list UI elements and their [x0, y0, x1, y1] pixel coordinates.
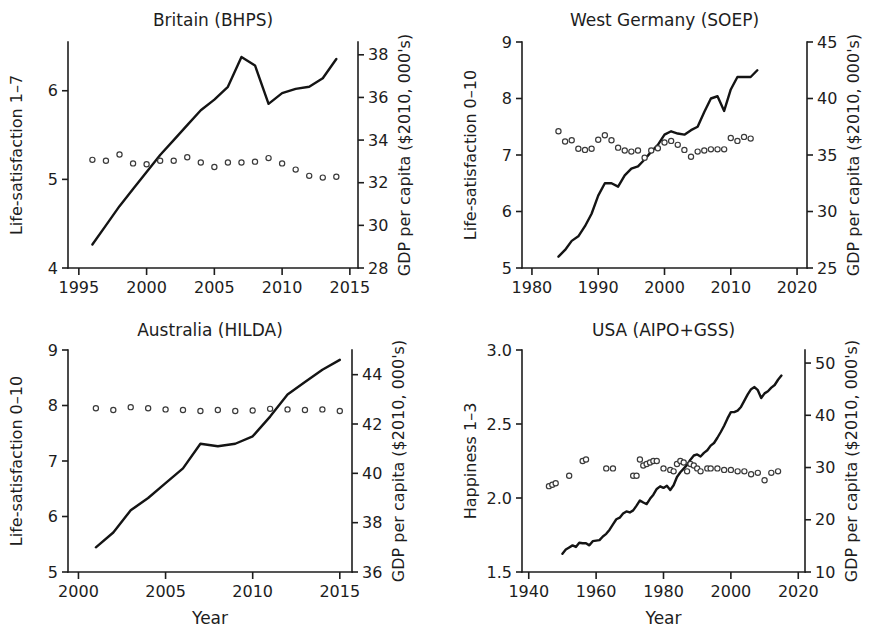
- data-point: [634, 473, 639, 478]
- y-axis-title-right: GDP per capita ($2010, 000's): [842, 340, 861, 582]
- data-point: [635, 148, 640, 153]
- data-point: [569, 138, 574, 143]
- y-tick-label-right: 38: [368, 45, 388, 64]
- gdp-per-capita-line: [562, 376, 781, 554]
- y-tick-label-right: 25: [817, 259, 837, 278]
- data-point: [239, 160, 244, 165]
- y-tick-label-right: 30: [817, 202, 837, 221]
- y-tick-label-right: 40: [815, 406, 835, 425]
- data-point: [225, 160, 230, 165]
- data-point: [103, 158, 108, 163]
- data-point: [610, 466, 615, 471]
- y-axis-right: 1020304050: [805, 354, 835, 582]
- life-satisfaction-points: [546, 457, 780, 489]
- data-point: [742, 469, 747, 474]
- data-point: [642, 155, 647, 160]
- data-point: [589, 146, 594, 151]
- axis-spines: [68, 350, 352, 572]
- data-point: [320, 407, 325, 412]
- data-point: [622, 148, 627, 153]
- data-point: [695, 149, 700, 154]
- data-point: [307, 173, 312, 178]
- data-point: [158, 158, 163, 163]
- y-axis-right: 283032343638: [358, 45, 388, 277]
- y-tick-label-left: 7: [502, 146, 512, 165]
- y-tick-label-right: 36: [362, 563, 382, 582]
- x-axis: 19801990200020102020: [512, 268, 818, 297]
- data-point: [596, 137, 601, 142]
- data-point: [320, 175, 325, 180]
- data-point: [728, 467, 733, 472]
- y-tick-label-right: 30: [815, 458, 835, 477]
- x-tick-label: 2005: [194, 278, 235, 297]
- data-point: [722, 467, 727, 472]
- x-tick-label: 1995: [58, 278, 99, 297]
- y-axis-left: 56789: [48, 341, 68, 582]
- x-tick-label: 1960: [576, 582, 617, 601]
- y-axis-title-right: GDP per capita ($2010, 000's): [844, 34, 863, 276]
- data-point: [637, 457, 642, 462]
- data-point: [684, 469, 689, 474]
- gdp-per-capita-line: [558, 70, 757, 256]
- data-point: [609, 138, 614, 143]
- x-tick-label: 1940: [508, 582, 549, 601]
- data-point: [748, 136, 753, 141]
- data-point: [698, 469, 703, 474]
- x-axis: 19401960198020002020: [508, 572, 818, 601]
- data-point: [715, 147, 720, 152]
- data-point: [163, 407, 168, 412]
- data-point: [682, 147, 687, 152]
- data-point: [604, 466, 609, 471]
- y-tick-label-right: 30: [368, 216, 388, 235]
- data-point: [130, 161, 135, 166]
- y-tick-label-right: 20: [815, 510, 835, 529]
- data-point: [567, 473, 572, 478]
- axis-spines: [68, 42, 358, 268]
- data-point: [252, 159, 257, 164]
- data-point: [582, 147, 587, 152]
- y-tick-label-left: 8: [502, 89, 512, 108]
- y-tick-label-left: 1.5: [487, 563, 512, 582]
- y-tick-label-right: 10: [815, 563, 835, 582]
- y-axis-left: 456: [48, 81, 68, 277]
- data-point: [185, 155, 190, 160]
- data-point: [93, 406, 98, 411]
- x-axis-title: Year: [645, 608, 682, 628]
- y-tick-label-right: 40: [362, 464, 382, 483]
- y-axis-title-right: GDP per capita ($2010, 000's): [395, 34, 414, 276]
- y-tick-label-right: 40: [817, 89, 837, 108]
- data-point: [553, 481, 558, 486]
- data-point: [285, 407, 290, 412]
- data-point: [128, 405, 133, 410]
- x-tick-label: 2015: [330, 278, 371, 297]
- data-point: [180, 407, 185, 412]
- data-point: [268, 406, 273, 411]
- y-tick-label-right: 36: [368, 88, 388, 107]
- y-axis-title-left: Life-satisfaction 0–10: [461, 70, 480, 240]
- y-tick-label-left: 2.5: [487, 415, 512, 434]
- chart-panel-west-germany: West Germany (SOEP)567892530354045198019…: [447, 0, 895, 314]
- panel-title: USA (AIPO+GSS): [592, 320, 735, 340]
- plot-area-britain: Britain (BHPS)45628303234363819952000200…: [0, 0, 448, 314]
- chart-panel-australia: Australia (HILDA)56789363840424420002005…: [0, 314, 448, 628]
- data-point: [90, 157, 95, 162]
- data-point: [775, 469, 780, 474]
- panel-title: Australia (HILDA): [137, 320, 283, 340]
- y-tick-label-left: 5: [48, 170, 58, 189]
- data-point: [661, 466, 666, 471]
- y-tick-label-left: 6: [48, 507, 58, 526]
- x-tick-label: 2020: [777, 278, 818, 297]
- y-axis-title-right: GDP per capita ($2010, 000's): [389, 340, 408, 582]
- x-tick-label: 1980: [643, 582, 684, 601]
- data-point: [602, 133, 607, 138]
- y-tick-label-right: 44: [362, 365, 382, 384]
- data-point: [755, 470, 760, 475]
- life-satisfaction-points: [93, 405, 342, 414]
- y-axis-right: 3638404244: [352, 365, 382, 581]
- life-satisfaction-points: [90, 152, 339, 180]
- x-axis: 2000200520102015: [58, 572, 360, 601]
- data-point: [735, 469, 740, 474]
- x-tick-label: 1980: [512, 278, 553, 297]
- y-tick-label-right: 42: [362, 415, 382, 434]
- plot-area-australia: Australia (HILDA)56789363840424420002005…: [0, 314, 448, 628]
